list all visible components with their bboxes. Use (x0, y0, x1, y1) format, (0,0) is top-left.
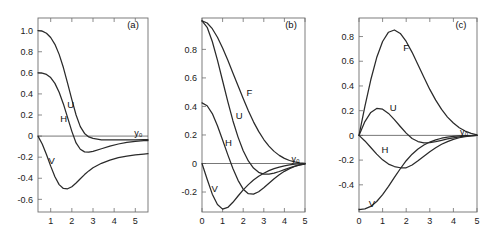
y-tick-label: 0.4 (184, 102, 197, 112)
plot-frame (359, 18, 477, 212)
curve-H (359, 135, 477, 167)
y-tick-label: -0.6 (17, 195, 33, 205)
curve-label-U: U (236, 110, 243, 121)
figure-root: 1.00.80.60.40.20-0.2-0.4-0.612345UHVy₀(a… (0, 0, 491, 246)
y-tick-label: 0.4 (20, 89, 33, 99)
y-tick-label: -0.4 (17, 173, 33, 183)
panel-tag: (a) (127, 19, 139, 30)
curve-label-H: H (60, 113, 67, 124)
x-tick-label: 1 (220, 216, 225, 226)
curve-label-H: H (382, 144, 389, 155)
y-tick-label: -0.2 (338, 155, 354, 165)
x-tick-label: 2 (404, 216, 409, 226)
y-tick-label: 0.2 (341, 106, 354, 116)
asymptote-label: y₀ (292, 154, 301, 164)
asymptote-label: y₀ (460, 127, 469, 137)
y-tick-label: 0.6 (184, 73, 197, 83)
curve-label-V: V (49, 155, 56, 166)
x-tick-label: 0 (356, 216, 361, 226)
x-tick-label: 2 (69, 216, 74, 226)
x-tick-label: 4 (451, 216, 456, 226)
y-tick-label: 0 (192, 159, 197, 169)
curve-U (202, 21, 305, 174)
curve-U (38, 31, 148, 140)
x-tick-label: 4 (282, 216, 287, 226)
x-tick-label: 5 (133, 216, 138, 226)
chart-panel-c: 0.80.60.40.20-0.2-0.4012345FUHVy₀(c) (315, 0, 491, 246)
y-tick-label: 1.0 (20, 26, 33, 36)
x-tick-label: 4 (112, 216, 117, 226)
panel-tag: (c) (455, 19, 466, 30)
curve-label-V: V (369, 198, 376, 209)
x-tick-label: 5 (302, 216, 307, 226)
chart-panel-a: 1.00.80.60.40.20-0.2-0.4-0.612345UHVy₀(a… (0, 0, 160, 246)
y-tick-label: 0 (349, 131, 354, 141)
curve-label-V: V (212, 183, 219, 194)
plot-frame (38, 18, 148, 212)
panel-tag: (b) (285, 19, 297, 30)
curve-label-F: F (403, 42, 409, 53)
y-tick-label: 0 (28, 131, 33, 141)
y-tick-label: 0.2 (20, 110, 33, 120)
x-tick-label: 5 (474, 216, 479, 226)
curve-label-H: H (225, 137, 232, 148)
chart-panel-b: 0.80.60.40.20-0.2012345FUHVy₀(b) (160, 0, 315, 246)
y-tick-label: 0.8 (341, 32, 354, 42)
y-tick-label: 0.6 (341, 56, 354, 66)
y-tick-label: 0.4 (341, 81, 354, 91)
y-tick-label: -0.4 (338, 180, 354, 190)
x-tick-label: 3 (90, 216, 95, 226)
x-tick-label: 3 (261, 216, 266, 226)
y-tick-label: -0.2 (17, 152, 33, 162)
curve-label-U: U (390, 102, 397, 113)
y-tick-label: 0.2 (184, 130, 197, 140)
y-tick-label: 0.6 (20, 68, 33, 78)
x-tick-label: 2 (241, 216, 246, 226)
x-tick-label: 1 (48, 216, 53, 226)
curve-F (359, 30, 477, 135)
curve-label-F: F (246, 87, 252, 98)
x-tick-label: 1 (380, 216, 385, 226)
curve-label-U: U (67, 99, 74, 110)
y-tick-label: 0.8 (184, 45, 197, 55)
curve-V (359, 135, 477, 209)
x-tick-label: 0 (199, 216, 204, 226)
asymptote-label: y₀ (134, 128, 143, 138)
y-tick-label: -0.2 (181, 187, 197, 197)
x-tick-label: 3 (427, 216, 432, 226)
y-tick-label: 0.8 (20, 47, 33, 57)
curve-F (202, 21, 305, 164)
